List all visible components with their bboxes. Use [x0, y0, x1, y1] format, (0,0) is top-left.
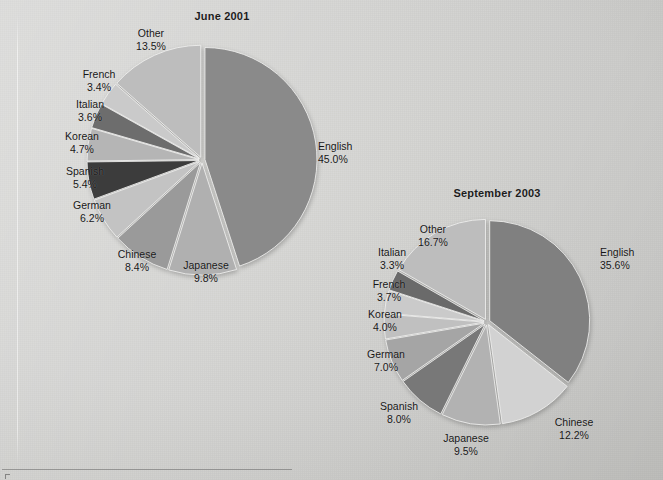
slice-label-september-2003-italian: Italian3.3%	[378, 246, 406, 271]
slice-label-name: Spanish	[66, 165, 104, 177]
slice-label-name: English	[600, 246, 634, 258]
slice-label-name: Chinese	[118, 248, 157, 260]
slice-label-percent: 3.4%	[83, 80, 116, 93]
slice-label-percent: 9.5%	[443, 444, 489, 457]
slice-label-percent: 5.4%	[66, 177, 104, 190]
pie-graphic-september-2003	[380, 215, 594, 429]
slice-label-september-2003-english: English35.6%	[600, 246, 634, 271]
slice-label-percent: 8.0%	[380, 412, 418, 425]
slice-label-percent: 8.4%	[118, 260, 157, 273]
slice-label-june-2001-other: Other13.5%	[136, 27, 166, 52]
slice-label-name: Korean	[368, 308, 402, 320]
slice-label-percent: 6.2%	[73, 211, 111, 224]
slice-label-june-2001-german: German6.2%	[73, 199, 111, 224]
slice-label-september-2003-german: German7.0%	[367, 348, 405, 373]
slice-label-name: German	[367, 348, 405, 360]
slice-label-percent: 7.0%	[367, 360, 405, 373]
slice-label-june-2001-korean: Korean4.7%	[65, 130, 99, 155]
slice-label-name: Japanese	[443, 432, 489, 444]
chart-title-june-2001: June 2001	[194, 10, 249, 22]
slice-label-name: Other	[138, 27, 164, 39]
slice-label-percent: 13.5%	[136, 39, 166, 52]
slice-label-name: French	[373, 278, 406, 290]
slice-label-name: French	[83, 68, 116, 80]
slice-label-name: English	[318, 140, 352, 152]
slice-label-percent: 9.8%	[183, 271, 229, 284]
slice-label-september-2003-japanese: Japanese9.5%	[443, 432, 489, 457]
slice-label-june-2001-japanese: Japanese9.8%	[183, 259, 229, 284]
slice-label-june-2001-spanish: Spanish5.4%	[66, 165, 104, 190]
slice-label-june-2001-french: French3.4%	[83, 68, 116, 93]
slice-label-june-2001-chinese: Chinese8.4%	[118, 248, 157, 273]
pie-graphic-june-2001	[83, 41, 321, 279]
slice-label-name: Chinese	[555, 416, 594, 428]
slice-label-september-2003-other: Other16.7%	[418, 223, 448, 248]
slice-label-percent: 3.7%	[373, 290, 406, 303]
slice-label-percent: 3.3%	[378, 258, 406, 271]
slice-label-percent: 45.0%	[318, 152, 352, 165]
chart-title-september-2003: September 2003	[453, 187, 540, 199]
slice-label-percent: 16.7%	[418, 235, 448, 248]
slice-label-september-2003-french: French3.7%	[373, 278, 406, 303]
slice-label-name: Italian	[378, 246, 406, 258]
slice-label-june-2001-english: English45.0%	[318, 140, 352, 165]
slice-label-september-2003-chinese: Chinese12.2%	[555, 416, 594, 441]
scan-fold-line	[17, 14, 18, 466]
slice-label-name: Korean	[65, 130, 99, 142]
slice-label-name: Spanish	[380, 400, 418, 412]
slice-label-name: German	[73, 199, 111, 211]
page-bottom-rule	[2, 469, 292, 470]
slice-label-percent: 3.6%	[76, 110, 104, 123]
slice-label-september-2003-korean: Korean4.0%	[368, 308, 402, 333]
slice-label-name: Italian	[76, 98, 104, 110]
slice-label-june-2001-italian: Italian3.6%	[76, 98, 104, 123]
slice-label-percent: 4.7%	[65, 142, 99, 155]
slice-label-september-2003-spanish: Spanish8.0%	[380, 400, 418, 425]
page-corner-mark	[5, 474, 10, 479]
slice-label-percent: 4.0%	[368, 320, 402, 333]
slice-label-percent: 35.6%	[600, 258, 634, 271]
slice-label-name: Other	[420, 223, 446, 235]
slice-label-name: Japanese	[183, 259, 229, 271]
slice-label-percent: 12.2%	[555, 428, 594, 441]
